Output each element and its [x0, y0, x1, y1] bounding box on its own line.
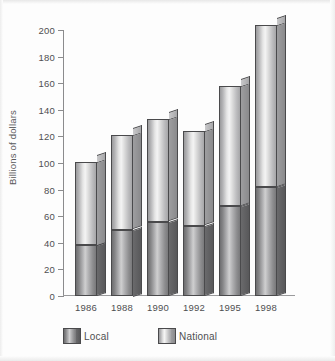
bar-side-national	[241, 83, 250, 206]
bar-side-local	[169, 219, 178, 296]
y-tick-mark	[58, 57, 64, 58]
y-tick-mark	[58, 296, 64, 297]
x-axis-label: 1995	[210, 302, 250, 313]
bar-side-national	[277, 22, 286, 187]
bar-side-national	[133, 132, 142, 229]
bar-column	[75, 162, 97, 296]
y-tick-label: 100	[39, 158, 55, 169]
y-tick-label: 160	[39, 78, 55, 89]
y-tick-label: 120	[39, 131, 55, 142]
y-axis-title-text: Billions of dollars	[7, 78, 18, 218]
bar-segment-national	[255, 25, 277, 187]
y-tick-mark	[58, 30, 64, 31]
x-axis-label: 1990	[138, 302, 178, 313]
y-tick-label: 20	[44, 264, 55, 275]
legend-label: National	[179, 331, 217, 342]
y-tick-mark	[58, 83, 64, 84]
y-tick-label: 200	[39, 25, 55, 36]
bar-segment-national	[111, 135, 133, 229]
bar-segment-national	[219, 86, 241, 206]
y-tick-label: 140	[39, 104, 55, 115]
chart-legend: LocalNational	[63, 328, 313, 352]
legend-item-national[interactable]: National	[158, 328, 217, 344]
legend-swatch-icon	[158, 328, 172, 344]
legend-swatch-side	[76, 328, 81, 344]
y-tick-label: 80	[44, 184, 55, 195]
bar-side-local	[133, 227, 142, 296]
y-tick-mark	[58, 136, 64, 137]
bar-column	[183, 131, 205, 296]
bar-segment-national	[147, 119, 169, 221]
bar-side-national	[97, 159, 106, 246]
legend-label: Local	[84, 331, 109, 342]
bar-column	[111, 135, 133, 296]
legend-item-local[interactable]: Local	[63, 328, 109, 344]
x-axis-label: 1992	[174, 302, 214, 313]
y-tick-mark	[58, 216, 64, 217]
bar-side-national	[205, 128, 214, 225]
bar-segment-national	[183, 131, 205, 225]
bar-segment-local	[183, 226, 205, 296]
bar-segment-local	[255, 187, 277, 296]
x-axis-label: 1986	[66, 302, 106, 313]
x-axis-label: 1998	[246, 302, 286, 313]
bar-column	[219, 86, 241, 296]
y-tick-mark	[58, 243, 64, 244]
y-tick-label: 180	[39, 51, 55, 62]
y-tick-label: 0	[50, 291, 55, 302]
y-tick-mark	[58, 110, 64, 111]
bar-column	[255, 25, 277, 296]
scan-edge-left	[0, 0, 3, 361]
bar-side-national	[169, 116, 178, 221]
y-tick-mark	[58, 269, 64, 270]
y-tick-mark	[58, 190, 64, 191]
x-axis-label: 1988	[102, 302, 142, 313]
bar-column	[147, 119, 169, 296]
bar-segment-national	[75, 162, 97, 246]
bar-segment-local	[147, 222, 169, 296]
y-tick-mark	[58, 163, 64, 164]
bar-side-local	[97, 243, 106, 296]
y-tick-label: 60	[44, 211, 55, 222]
bar-segment-local	[219, 206, 241, 296]
bar-side-local	[277, 184, 286, 296]
scan-edge-bottom	[0, 356, 335, 361]
legend-swatch-side	[171, 328, 176, 344]
scan-edge-right	[330, 0, 335, 361]
y-tick-label: 40	[44, 237, 55, 248]
bar-side-local	[205, 223, 214, 296]
bar-side-local	[241, 203, 250, 296]
bar-segment-local	[75, 245, 97, 296]
scan-edge-top	[0, 0, 335, 4]
bar-segment-local	[111, 230, 133, 297]
plot-area: 020406080100120140160180200 198619881990…	[63, 30, 285, 296]
bar-chart: Billions of dollars 02040608010012014016…	[0, 0, 335, 361]
legend-swatch-icon	[63, 328, 77, 344]
